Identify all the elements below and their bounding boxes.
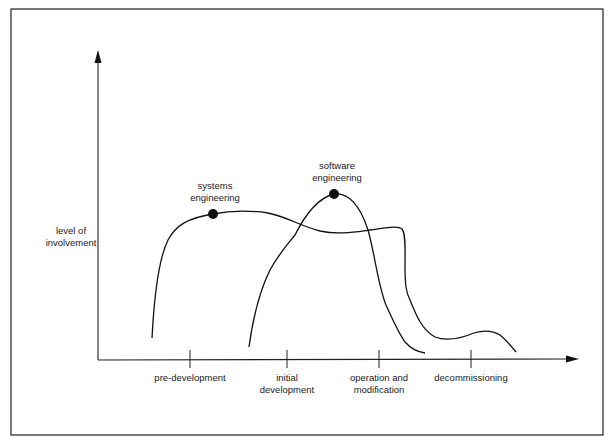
- systems-engineering-label: systems engineering: [180, 180, 250, 204]
- phase-label-pre-development: pre-development: [145, 372, 235, 384]
- software-engineering-label-line-1: software: [302, 160, 372, 172]
- software-engineering-label: software engineering: [302, 160, 372, 184]
- systems-engineering-marker: [208, 209, 218, 219]
- systems-engineering-label-line-1: systems: [180, 180, 250, 192]
- phase-label-pre-development-line-1: pre-development: [145, 372, 235, 384]
- x-axis: [98, 359, 568, 360]
- systems-engineering-curve: [152, 211, 516, 352]
- y-axis-label: level of involvement: [36, 225, 106, 249]
- phase-label-decommissioning-line-1: decommissioning: [421, 372, 521, 384]
- software-engineering-label-line-2: engineering: [302, 172, 372, 184]
- phase-label-operation-and-modification-line-1: operation and: [334, 372, 424, 384]
- phase-label-operation-and-modification-line-2: modification: [334, 384, 424, 396]
- phase-label-initial-development-line-2: development: [247, 384, 327, 396]
- y-axis-arrow-icon: [95, 50, 102, 63]
- y-axis-label-line-1: level of: [36, 225, 106, 237]
- software-engineering-curve: [249, 194, 425, 353]
- phase-label-initial-development-line-1: initial: [247, 372, 327, 384]
- systems-engineering-label-line-2: engineering: [180, 192, 250, 204]
- phase-label-initial-development: initial development: [247, 372, 327, 396]
- y-axis-label-line-2: involvement: [36, 237, 106, 249]
- phase-label-operation-and-modification: operation and modification: [334, 372, 424, 396]
- x-axis-arrow-icon: [566, 356, 579, 363]
- phase-label-decommissioning: decommissioning: [421, 372, 521, 384]
- software-engineering-marker: [329, 189, 339, 199]
